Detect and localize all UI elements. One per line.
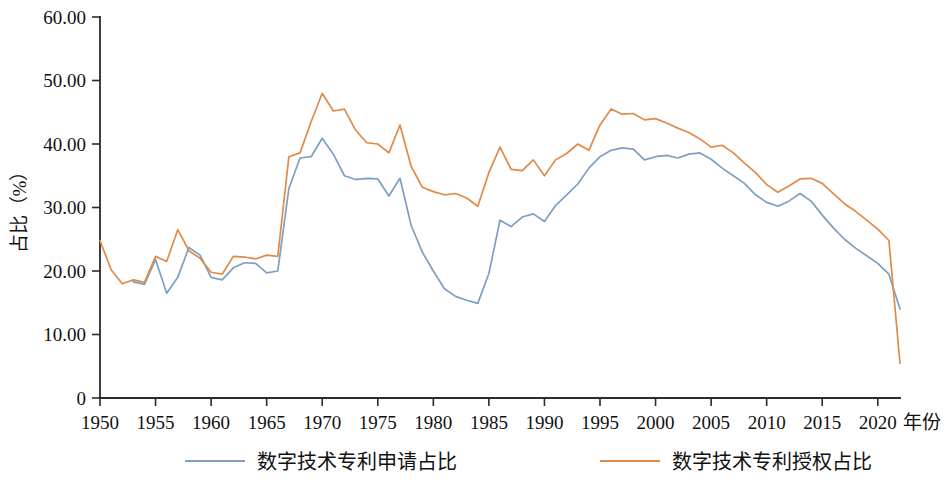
x-axis-tick-label: 1970 xyxy=(303,412,341,433)
x-axis-tick-label: 1990 xyxy=(525,412,563,433)
x-axis-tick-label: 1950 xyxy=(81,412,119,433)
series-line-grant-share xyxy=(100,93,900,363)
y-axis-title: 占比（%） xyxy=(9,162,30,254)
x-axis-tick-label: 1980 xyxy=(414,412,452,433)
line-chart-canvas: 010.0020.0030.0040.0050.0060.00195019551… xyxy=(0,0,946,482)
chart-axis-lines xyxy=(100,17,900,398)
legend-label-application-share: 数字技术专利申请占比 xyxy=(257,451,457,473)
x-axis-tick-label: 1955 xyxy=(137,412,175,433)
y-axis-tick-label: 60.00 xyxy=(43,7,86,28)
x-axis-tick-label: 2015 xyxy=(803,412,841,433)
x-axis-title: 年份 xyxy=(903,412,941,433)
y-axis-tick-label: 30.00 xyxy=(43,197,86,218)
y-axis-tick-label: 50.00 xyxy=(43,70,86,91)
series-line-application-share xyxy=(133,138,900,309)
legend-label-grant-share: 数字技术专利授权占比 xyxy=(672,451,872,473)
x-axis-tick-label: 2000 xyxy=(637,412,675,433)
x-axis-tick-label: 1965 xyxy=(248,412,286,433)
y-axis-tick-label: 0 xyxy=(77,388,87,409)
x-axis-tick-label: 2005 xyxy=(692,412,730,433)
x-axis-tick-label: 2020 xyxy=(859,412,897,433)
chart-figure: 010.0020.0030.0040.0050.0060.00195019551… xyxy=(0,0,946,482)
x-axis-tick-label: 1960 xyxy=(192,412,230,433)
x-axis-tick-label: 2010 xyxy=(748,412,786,433)
x-axis-tick-label: 1985 xyxy=(470,412,508,433)
x-axis-tick-label: 1975 xyxy=(359,412,397,433)
y-axis-tick-label: 40.00 xyxy=(43,134,86,155)
x-axis-tick-label: 1995 xyxy=(581,412,619,433)
y-axis-tick-label: 10.00 xyxy=(43,324,86,345)
y-axis-tick-label: 20.00 xyxy=(43,261,86,282)
